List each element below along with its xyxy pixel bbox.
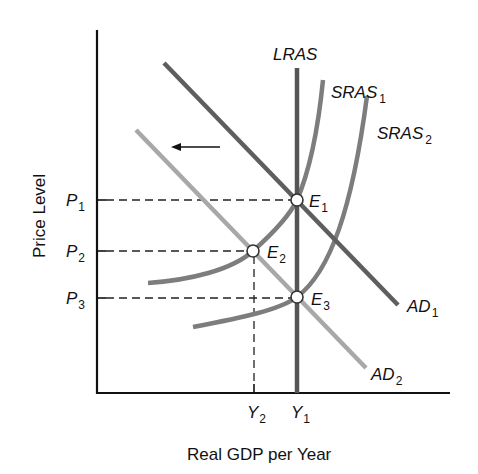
y-axis-title: Price Level [30,174,49,258]
p3-label: P3 [66,289,85,312]
ad-as-diagram: LRAS SRAS1 SRAS2 AD1 AD2 E1 E2 E3 P1 P2 … [0,0,478,474]
e1-point [291,194,303,206]
ad1-label: AD1 [406,297,439,320]
e3-label: E3 [311,290,330,313]
e2-label: E2 [267,243,286,266]
y1-label: Y1 [291,403,310,426]
ad2-label: AD2 [370,365,403,388]
sras2-label: SRAS2 [377,124,432,147]
y2-label: Y2 [247,403,266,426]
sras1-label: SRAS1 [331,83,386,106]
lras-label: LRAS [273,45,318,64]
sras2-curve [193,96,367,327]
x-axis-title: Real GDP per Year [187,445,332,464]
p1-label: P1 [66,191,85,214]
p2-label: P2 [66,242,85,265]
left-arrow-icon [171,143,220,151]
e1-label: E1 [309,192,328,215]
e2-point [247,245,259,257]
e3-point [291,291,303,303]
